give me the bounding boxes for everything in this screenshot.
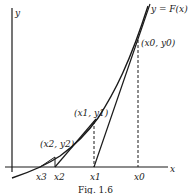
point-x2-y2: (x2, y2): [40, 139, 75, 149]
x-axis-label: x: [170, 164, 175, 174]
newton-method-diagram: y x y = F(x) (x0, y0) (x1, y1) (x2, y2) …: [0, 0, 189, 194]
curve-label: y = F(x): [150, 4, 188, 14]
tick-x0: x0: [134, 172, 145, 182]
tangent-x0: [94, 4, 150, 167]
tangent-x2: [40, 157, 55, 167]
tick-x3: x3: [36, 172, 47, 182]
curve-f: [12, 6, 148, 178]
y-axis-label: y: [14, 8, 21, 18]
figure-caption: Fig. 1.6: [78, 185, 113, 194]
point-x1-y1: (x1, y1): [74, 108, 109, 118]
point-x0-y0: (x0, y0): [141, 38, 176, 48]
tick-x1: x1: [90, 172, 101, 182]
tick-x2: x2: [54, 172, 65, 182]
